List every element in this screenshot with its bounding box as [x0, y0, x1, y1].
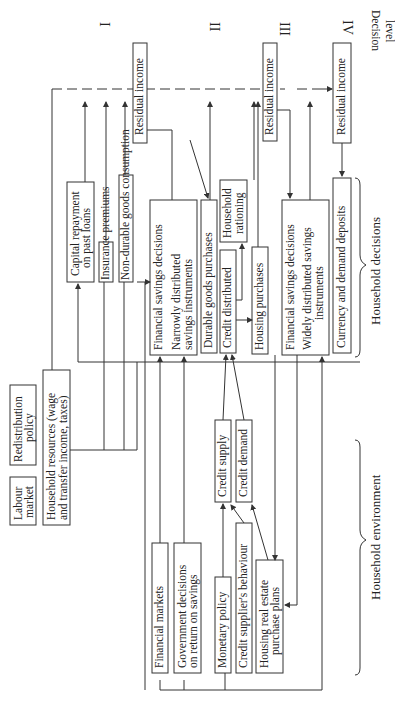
level-IV: IV [340, 20, 355, 35]
level-II: II [207, 22, 222, 32]
household-rationing-line1: Household [221, 188, 233, 238]
household-environment-brace [355, 440, 366, 675]
capital-repayment-line2: on past loans [80, 207, 93, 268]
durable-goods-purchases: Durable goods purchases [202, 232, 215, 348]
residual-income-3: Residual income [335, 58, 347, 135]
residual-income-2: Residual income [263, 58, 275, 135]
monetary-policy: Monetary policy [216, 591, 229, 668]
residual-income-1: Residual income [133, 58, 145, 135]
household-resources-line2: and transfer income, taxes) [57, 395, 70, 520]
household-environment-label: Household environment [368, 474, 383, 600]
redistribution-policy-line2: policy [23, 413, 36, 442]
credit-distributed: Credit distributed [221, 267, 233, 348]
connectors [52, 89, 360, 690]
decision-level-title-1: Decision [370, 10, 382, 51]
household-decisions-label: Household decisions [368, 217, 383, 325]
financial-savings-wide-line1: Financial savings decisions [284, 224, 297, 350]
labour-market-line2: market [23, 485, 35, 518]
financial-savings-narrow-line3: savings instruments [182, 258, 195, 350]
decision-level-title-2: level [384, 20, 395, 42]
financial-savings-wide-line3: instruments [313, 266, 325, 320]
credit-suppliers-behaviour: Credit supplier's behaviour [237, 544, 250, 668]
currency-demand-deposits: Currency and demand deposits [335, 205, 348, 348]
household-decision-diagram: I II III IV Decision level Residual inco… [0, 0, 395, 715]
household-rationing-line2: rationing [233, 192, 246, 234]
housing-purchases: Housing purchases [253, 262, 266, 350]
household-decisions-brace [355, 178, 366, 357]
credit-supply: Credit supply [216, 434, 229, 497]
housing-real-estate-line2: purchase plans [269, 586, 282, 655]
credit-demand: Credit demand [237, 429, 249, 497]
level-III: III [277, 22, 292, 36]
government-decisions-line2: on return on savings [187, 574, 200, 668]
financial-savings-narrow-line1: Financial savings decisions [152, 224, 165, 350]
financial-markets: Financial markets [153, 585, 165, 668]
level-I: I [97, 22, 112, 27]
